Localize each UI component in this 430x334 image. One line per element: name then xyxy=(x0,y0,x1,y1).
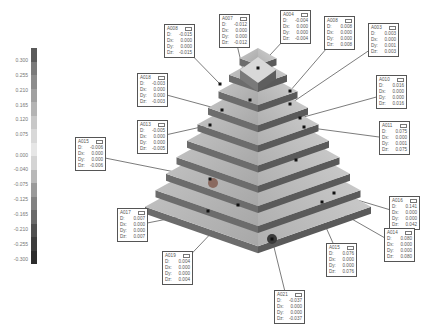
callout-color-icon xyxy=(158,123,165,127)
probe-callout[interactable]: A007D:-0.012Dx:0.000Dy:0.000Dz:-0.012 xyxy=(219,14,250,48)
callout-row: Dz:0.080 xyxy=(387,254,412,260)
callout-color-icon xyxy=(185,27,192,31)
callout-color-icon xyxy=(295,293,302,297)
component-value: -0.005 xyxy=(152,146,165,152)
component-value: -0.006 xyxy=(90,163,103,169)
component-value: 0.004 xyxy=(179,277,191,283)
component-label: Dz: xyxy=(382,147,389,153)
callout-color-icon xyxy=(347,246,354,250)
probe-callout[interactable]: A010D:0.016Dx:0.000Dy:0.000Dz:0.016 xyxy=(376,75,407,109)
component-value: 0.003 xyxy=(385,49,397,55)
probe-callout[interactable]: A019D:0.004Dx:0.000Dy:0.000Dz:0.004 xyxy=(162,251,193,285)
component-label: Dz: xyxy=(165,277,172,283)
callout-color-icon xyxy=(138,211,145,215)
component-label: Dz: xyxy=(371,49,378,55)
callout-row: Dz:-0.015 xyxy=(167,50,192,56)
probe-callout[interactable]: A008D:-0.015Dx:0.000Dy:0.000Dz:-0.015 xyxy=(164,24,195,58)
callout-row: Dz:0.003 xyxy=(371,49,396,55)
callout-row: Dz:-0.012 xyxy=(222,40,247,46)
callout-row: Dz:-0.004 xyxy=(283,36,308,42)
callout-row: Dz:-0.005 xyxy=(140,146,165,152)
component-label: Dz: xyxy=(140,99,147,105)
component-value: -0.012 xyxy=(234,40,247,46)
callout-color-icon xyxy=(301,13,308,17)
callout-color-icon xyxy=(397,78,404,82)
component-label: Dz: xyxy=(329,269,336,275)
probe-callout[interactable]: A013D:-0.005Dx:0.000Dy:0.000Dz:-0.005 xyxy=(137,120,168,154)
callout-row: Dz:-0.003 xyxy=(140,99,165,105)
component-value: 0.008 xyxy=(341,42,353,48)
callout-row: Dz:0.004 xyxy=(165,277,190,283)
callout-color-icon xyxy=(405,231,412,235)
probe-callout[interactable]: A016D:0.141Dx:0.000Dy:0.000Dz:0.042 xyxy=(389,196,420,230)
callout-row: Dz:-0.006 xyxy=(78,163,103,169)
callout-color-icon xyxy=(345,19,352,23)
component-value: -0.003 xyxy=(152,99,165,105)
callout-row: Dz:0.007 xyxy=(120,234,145,240)
component-value: 0.007 xyxy=(134,234,146,240)
component-label: Dz: xyxy=(222,40,229,46)
probe-callout[interactable]: A003D:0.003Dx:0.000Dy:0.001Dz:0.003 xyxy=(368,23,399,57)
component-label: Dz: xyxy=(78,163,85,169)
probe-callout[interactable]: A015D:0.076Dx:0.000Dy:0.000Dz:0.076 xyxy=(326,243,357,277)
component-label: Dz: xyxy=(277,316,284,322)
component-label: Dz: xyxy=(167,50,174,56)
probe-callout[interactable]: A015D:-0.006Dx:0.000Dy:0.000Dz:-0.006 xyxy=(75,137,106,171)
pyramid-model xyxy=(0,0,430,334)
callout-row: Dz:0.076 xyxy=(329,269,354,275)
component-value: 0.080 xyxy=(401,254,413,260)
component-label: Dz: xyxy=(120,234,127,240)
component-label: Dz: xyxy=(140,146,147,152)
callout-color-icon xyxy=(240,17,247,21)
component-value: 0.016 xyxy=(393,101,405,107)
probe-callout[interactable]: A008D:0.008Dx:0.000Dy:0.000Dz:0.008 xyxy=(324,16,355,50)
callout-color-icon xyxy=(183,254,190,258)
component-value: 0.075 xyxy=(396,147,408,153)
callout-row: Dz:0.075 xyxy=(382,147,407,153)
callout-color-icon xyxy=(400,124,407,128)
component-value: 0.076 xyxy=(343,269,355,275)
callout-color-icon xyxy=(410,199,417,203)
component-label: Dz: xyxy=(283,36,290,42)
component-label: Dz: xyxy=(387,254,394,260)
probe-callout[interactable]: A011D:0.075Dx:0.000Dy:0.001Dz:0.075 xyxy=(379,121,410,155)
callout-color-icon xyxy=(389,26,396,30)
probe-callout[interactable]: A014D:0.080Dx:0.000Dy:0.000Dz:0.080 xyxy=(384,228,415,262)
component-label: Dz: xyxy=(379,101,386,107)
callout-color-icon xyxy=(96,140,103,144)
probe-callout[interactable]: A018D:-0.003Dx:0.000Dy:0.000Dz:-0.003 xyxy=(137,73,168,107)
callout-row: Dz:-0.037 xyxy=(277,316,302,322)
component-value: -0.004 xyxy=(295,36,308,42)
probe-callout[interactable]: A021D:-0.037Dx:0.000Dy:0.000Dz:-0.037 xyxy=(274,290,305,324)
component-value: -0.037 xyxy=(289,316,302,322)
probe-callout[interactable]: A004D:-0.004Dx:0.000Dy:0.000Dz:-0.004 xyxy=(280,10,311,44)
callout-row: Dz:0.008 xyxy=(327,42,352,48)
callout-row: Dz:0.016 xyxy=(379,101,404,107)
component-label: Dz: xyxy=(327,42,334,48)
callout-color-icon xyxy=(158,76,165,80)
probe-callout[interactable]: A017D:0.007Dx:0.000Dy:0.000Dz:0.007 xyxy=(117,208,148,242)
component-value: -0.015 xyxy=(179,50,192,56)
